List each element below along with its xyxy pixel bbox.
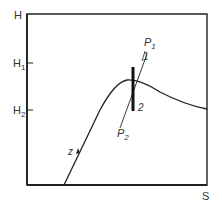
plot-frame (27, 14, 207, 185)
y-axis-label: H (14, 9, 22, 21)
direction-arrow-icon (76, 148, 80, 154)
h1-label: H1 (13, 57, 26, 72)
x-axis-label: S (202, 190, 209, 202)
p2-label: P2 (117, 127, 129, 142)
state-2-label: 2 (137, 102, 144, 113)
mollier-diagram: H S H1 H2 z P1 P2 1 2 (0, 0, 222, 206)
h2-label: H2 (13, 104, 26, 119)
curve-label: z (67, 146, 73, 157)
process-curve (64, 80, 207, 185)
state-1-label: 1 (143, 51, 149, 62)
p1-label: P1 (144, 36, 156, 51)
